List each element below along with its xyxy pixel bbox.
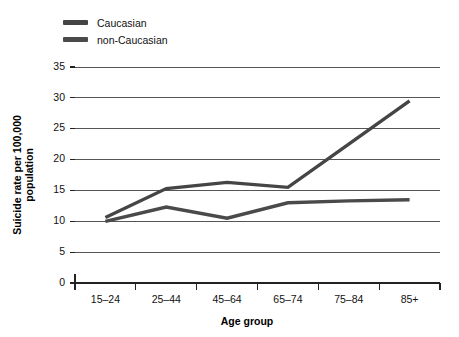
y-tick-label: 30 bbox=[53, 91, 65, 103]
y-axis-title-line1: Suicide rate per 100,000 bbox=[11, 115, 23, 235]
y-tick-label: 15 bbox=[53, 183, 65, 195]
series-lines bbox=[105, 101, 409, 221]
chart-svg: 05101520253035 15–2425–4445–6465–7475–84… bbox=[0, 0, 459, 337]
x-axis-tick-labels: 15–2425–4445–6465–7475–8485+ bbox=[91, 293, 419, 305]
y-tick-label: 0 bbox=[59, 276, 65, 288]
y-axis-tick-labels: 05101520253035 bbox=[53, 60, 65, 288]
y-tick-label: 5 bbox=[59, 245, 65, 257]
x-tick-label: 75–84 bbox=[334, 293, 363, 305]
x-axis-title: Age group bbox=[221, 315, 274, 327]
y-tick-label: 10 bbox=[53, 214, 65, 226]
suicide-rate-line-chart: Caucasian non-Caucasian 05101520253035 1… bbox=[0, 0, 459, 337]
series-line-non-caucasian bbox=[105, 200, 409, 222]
x-tick-label: 15–24 bbox=[91, 293, 120, 305]
plot-area: 05101520253035 15–2425–4445–6465–7475–84… bbox=[0, 0, 459, 337]
y-tick-label: 20 bbox=[53, 152, 65, 164]
x-tick-label: 25–44 bbox=[152, 293, 181, 305]
x-tick-label: 45–64 bbox=[212, 293, 241, 305]
y-tick-label: 35 bbox=[53, 60, 65, 72]
gridlines bbox=[70, 67, 440, 283]
x-tick-label: 85+ bbox=[401, 293, 419, 305]
y-axis-title-line2: population bbox=[23, 148, 35, 202]
x-axis-baseline bbox=[75, 274, 440, 290]
y-tick-label: 25 bbox=[53, 121, 65, 133]
x-tick-label: 65–74 bbox=[273, 293, 302, 305]
